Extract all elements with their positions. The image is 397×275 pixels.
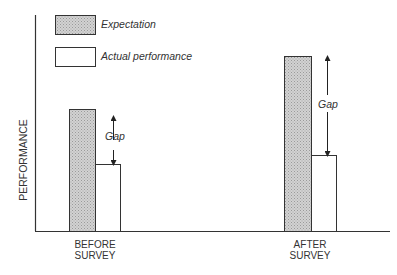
bar-before-actual <box>96 165 121 232</box>
legend-label-actual: Actual performance <box>100 50 192 62</box>
legend: Expectation Actual performance <box>56 16 193 67</box>
gap-label-after: Gap <box>318 98 338 110</box>
legend-swatch-actual <box>56 48 96 67</box>
y-axis-label: PERFORMANCE <box>17 119 29 201</box>
bar-after-expectation <box>285 57 312 232</box>
gap-label-before: Gap <box>105 130 125 142</box>
x-label-before-line1: BEFORE <box>74 239 115 250</box>
after-survey-group: Gap <box>285 57 339 232</box>
performance-gap-diagram: PERFORMANCE Expectation Actual performan… <box>0 0 397 275</box>
bar-after-actual <box>312 156 337 232</box>
legend-label-expectation: Expectation <box>101 18 156 30</box>
before-survey-group: Gap <box>70 110 126 232</box>
x-label-after-line2: SURVEY <box>290 250 331 261</box>
x-label-after-line1: AFTER <box>294 239 327 250</box>
legend-swatch-expectation <box>56 16 96 35</box>
bar-before-expectation <box>70 110 96 232</box>
x-label-before-line2: SURVEY <box>75 250 116 261</box>
